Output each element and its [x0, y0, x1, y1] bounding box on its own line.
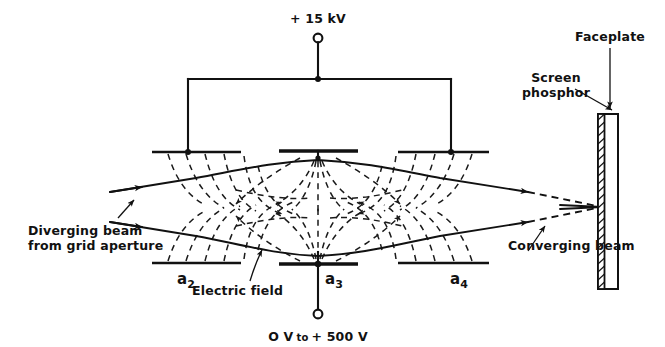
a3-sub: 3 — [335, 278, 343, 291]
focus-convergence-lower — [560, 207, 602, 209]
diagram-canvas: + 15 kV O Vto+ 500 V a2 a3 a4 Diverging … — [0, 0, 665, 347]
field-line-ul-4 — [224, 154, 256, 211]
field-line-saddle-l1 — [236, 217, 310, 226]
a4-base: a — [450, 270, 460, 288]
field-line-lr-4 — [384, 205, 416, 261]
diverging-beam-label-line1: Diverging beam — [28, 223, 143, 238]
focus-supply-group — [314, 252, 323, 318]
hv-supply-group — [185, 34, 454, 155]
a4-sub: 4 — [460, 278, 468, 291]
electric-field-label: Electric field — [192, 283, 283, 298]
focus-supply-label: O Vto+ 500 V — [268, 329, 368, 344]
screen-assembly-group — [598, 114, 618, 289]
field-line-lr-6 — [344, 201, 382, 250]
a3-lower-node — [315, 261, 321, 267]
field-line-ur-3 — [400, 154, 435, 210]
electric-field-leader — [250, 250, 262, 281]
diverging-beam-label-line2: from grid aperture — [28, 238, 163, 253]
high-voltage-terminal — [314, 34, 323, 43]
a2-base: a — [177, 270, 187, 288]
upper-beam-path — [110, 160, 528, 192]
electron-lens-diagram: + 15 kV O Vto+ 500 V a2 a3 a4 Diverging … — [0, 0, 665, 347]
electric-field-lines-group — [168, 154, 472, 261]
focus-voltage-terminal — [314, 310, 323, 319]
a3-base: a — [325, 270, 335, 288]
hv-supply-label: + 15 kV — [290, 11, 346, 26]
field-line-lr-3 — [400, 206, 435, 261]
field-line-a3l-4 — [320, 209, 344, 259]
field-line-ll-3 — [205, 206, 240, 261]
field-line-ul-2 — [186, 154, 224, 208]
field-line-a3u-2 — [292, 161, 316, 210]
upper-electrodes-group — [152, 151, 489, 161]
hv-junction-node — [315, 76, 321, 82]
diverging-beam-leader — [118, 200, 134, 218]
field-line-ur-4 — [384, 154, 416, 211]
field-line-saddle-u1 — [236, 190, 310, 199]
screen-phosphor-label-line2: phosphor — [522, 85, 591, 100]
field-line-ll-4 — [224, 205, 256, 261]
faceplate-label: Faceplate — [575, 29, 645, 44]
electrode-label-a3: a3 — [325, 270, 343, 291]
field-line-ul-6 — [258, 166, 296, 215]
focus-label-suffix: + 500 V — [311, 329, 367, 344]
focus-label-mid: to — [296, 332, 308, 343]
focus-label-prefix: O V — [268, 329, 293, 344]
field-line-a3l-2 — [292, 209, 316, 259]
lower-beam-path — [110, 222, 528, 256]
field-line-ur-6 — [344, 166, 382, 215]
field-line-ur-2 — [416, 154, 454, 208]
converging-beam-label: Converging beam — [508, 238, 635, 253]
electrode-label-a4: a4 — [450, 270, 468, 291]
screen-phosphor-label-line1: Screen — [531, 70, 581, 85]
field-line-a3u-4 — [320, 161, 344, 210]
field-line-ll-6 — [258, 201, 296, 250]
upper-beam-entry-arrow — [110, 187, 142, 192]
field-line-saddle-u2 — [330, 190, 402, 199]
field-line-ul-3 — [205, 154, 240, 210]
